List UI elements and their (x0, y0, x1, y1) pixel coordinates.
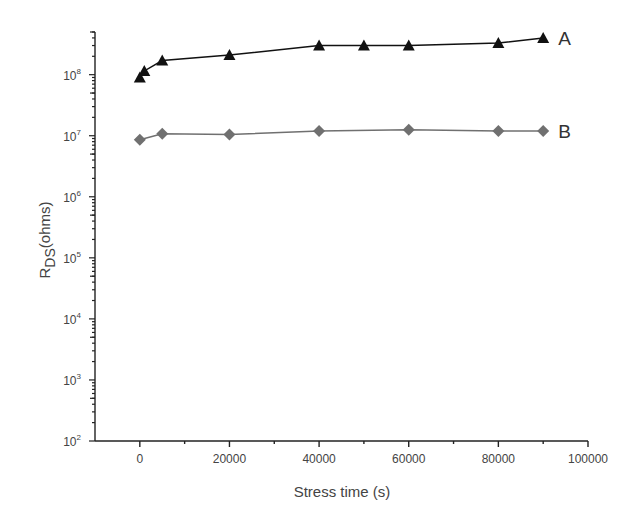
diamond-marker (223, 128, 235, 140)
y-tick-label: 107 (63, 128, 81, 144)
diamond-marker (134, 134, 146, 146)
diamond-marker (156, 128, 168, 140)
series-label-A: A (558, 28, 571, 49)
x-tick-label: 0 (136, 452, 143, 466)
y-tick-label: 104 (63, 311, 81, 327)
triangle-marker (138, 65, 150, 76)
x-tick-label: 80000 (482, 452, 516, 466)
chart: 0200004000060000800001000001021031041051… (0, 0, 635, 524)
y-tick-label: 105 (63, 250, 81, 266)
series-label-B: B (558, 121, 571, 142)
x-tick-label: 20000 (213, 452, 247, 466)
y-axis-title-subscript: DS (42, 248, 58, 267)
x-tick-label: 60000 (392, 452, 426, 466)
axes: 0200004000060000800001000001021031041051… (63, 32, 608, 466)
triangle-marker (537, 32, 549, 43)
diamond-marker (537, 125, 549, 137)
y-axis-title-main: R (36, 267, 53, 278)
y-tick-label: 102 (63, 433, 81, 449)
x-tick-label: 100000 (568, 452, 608, 466)
series-layer: AB (134, 28, 571, 146)
diamond-marker (403, 124, 415, 136)
diamond-marker (492, 125, 504, 137)
y-tick-label: 106 (63, 189, 81, 205)
y-axis-title: RDS(ohms) (36, 202, 58, 279)
x-tick-label: 40000 (302, 452, 336, 466)
y-axis-title-units: (ohms) (36, 202, 53, 249)
series-B: B (134, 121, 571, 146)
y-tick-label: 103 (63, 372, 81, 388)
series-line (140, 130, 543, 140)
x-axis-title: Stress time (s) (294, 483, 391, 500)
y-tick-label: 108 (63, 67, 81, 83)
series-A: A (134, 28, 571, 83)
series-line (140, 38, 543, 78)
diamond-marker (313, 125, 325, 137)
